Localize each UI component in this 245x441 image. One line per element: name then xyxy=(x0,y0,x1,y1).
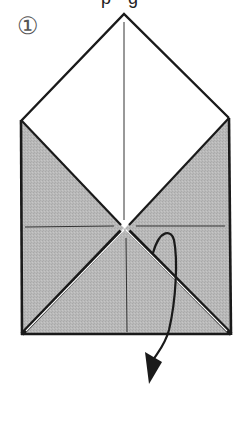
origami-diagram xyxy=(0,0,245,441)
